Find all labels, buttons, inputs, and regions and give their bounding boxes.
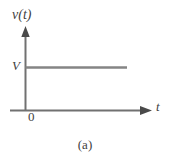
figure-container: v(t) V 0 t (a) [0, 0, 170, 161]
x-axis-label: t [156, 100, 160, 113]
y-axis-arrowhead [21, 26, 29, 37]
y-axis-label: v(t) [12, 8, 31, 22]
figure-caption: (a) [0, 137, 170, 153]
x-axis-arrowhead [140, 106, 152, 115]
y-tick-label-V: V [12, 59, 20, 72]
origin-label: 0 [28, 110, 35, 123]
